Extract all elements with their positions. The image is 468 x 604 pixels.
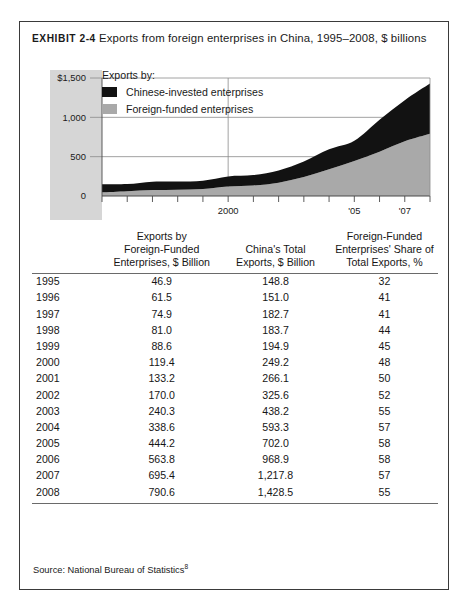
column-header-share-line3: Total Exports, %: [331, 256, 438, 269]
svg-text:$1,500: $1,500: [57, 72, 86, 83]
cell-ffe-exports: 338.6: [103, 419, 220, 435]
cell-ffe-share: 32: [331, 273, 438, 290]
legend-label-chinese-invested: Chinese-invested enterprises: [126, 86, 263, 98]
legend-item-chinese-invested: Chinese-invested enterprises: [102, 84, 342, 100]
cell-ffe-exports: 88.6: [103, 338, 220, 354]
cell-ffe-exports: 790.6: [103, 484, 220, 500]
cell-year: 2001: [32, 371, 103, 387]
cell-year: 1999: [32, 338, 103, 354]
svg-text:1,000: 1,000: [63, 112, 86, 123]
table-row: 199661.5151.041: [32, 290, 438, 306]
column-header-ffe-line2: Foreign-Funded: [103, 243, 220, 256]
cell-china-total: 968.9: [220, 452, 331, 468]
cell-china-total: 593.3: [220, 419, 331, 435]
table-bottom-divider: [32, 503, 438, 504]
column-header-ffe-line1: Exports by: [103, 230, 220, 243]
table-row: 2003240.3438.255: [32, 403, 438, 419]
cell-year: 1997: [32, 306, 103, 322]
cell-year: 2003: [32, 403, 103, 419]
cell-ffe-share: 50: [331, 371, 438, 387]
legend-title: Exports by:: [102, 69, 342, 81]
table-row: 2000119.4249.248: [32, 355, 438, 371]
cell-china-total: 438.2: [220, 403, 331, 419]
cell-china-total: 151.0: [220, 290, 331, 306]
cell-china-total: 325.6: [220, 387, 331, 403]
exhibit-data-table: Exports by Foreign-Funded Enterprises, $…: [32, 230, 438, 500]
cell-year: 2000: [32, 355, 103, 371]
legend-label-foreign-funded: Foreign-funded enterprises: [126, 103, 253, 115]
cell-year: 2007: [32, 468, 103, 484]
exhibit-container: EXHIBIT 2-4 Exports from foreign enterpr…: [19, 21, 449, 590]
cell-year: 2006: [32, 452, 103, 468]
cell-ffe-exports: 240.3: [103, 403, 220, 419]
cell-ffe-share: 55: [331, 484, 438, 500]
cell-ffe-share: 57: [331, 419, 438, 435]
exhibit-number-label: EXHIBIT 2-4: [32, 33, 96, 44]
table-row: 199774.9182.741: [32, 306, 438, 322]
table-row: 2007695.41,217.857: [32, 468, 438, 484]
cell-china-total: 148.8: [220, 273, 331, 290]
cell-ffe-exports: 119.4: [103, 355, 220, 371]
cell-ffe-share: 44: [331, 322, 438, 338]
cell-ffe-exports: 81.0: [103, 322, 220, 338]
svg-text:500: 500: [70, 151, 86, 162]
cell-ffe-share: 41: [331, 290, 438, 306]
cell-china-total: 266.1: [220, 371, 331, 387]
cell-china-total: 702.0: [220, 435, 331, 451]
cell-ffe-share: 58: [331, 435, 438, 451]
svg-text:'07: '07: [399, 205, 411, 216]
cell-ffe-share: 57: [331, 468, 438, 484]
source-note: Source: National Bureau of Statistics8: [33, 563, 188, 575]
cell-year: 2002: [32, 387, 103, 403]
table-row: 2001133.2266.150: [32, 371, 438, 387]
legend-swatch-black: [102, 87, 117, 97]
cell-year: 2008: [32, 484, 103, 500]
cell-ffe-exports: 46.9: [103, 273, 220, 290]
table-body: 199546.9148.832199661.5151.041199774.918…: [32, 273, 438, 500]
cell-china-total: 194.9: [220, 338, 331, 354]
cell-china-total: 249.2: [220, 355, 331, 371]
cell-year: 1996: [32, 290, 103, 306]
y-axis-label-band: [50, 70, 102, 220]
column-header-ffe-exports: Exports by Foreign-Funded Enterprises, $…: [103, 230, 220, 273]
cell-china-total: 182.7: [220, 306, 331, 322]
cell-ffe-share: 48: [331, 355, 438, 371]
table-row: 199881.0183.744: [32, 322, 438, 338]
cell-ffe-exports: 170.0: [103, 387, 220, 403]
chart-x-tick-labels: 2000'05'07: [218, 205, 411, 216]
column-header-total-line3: Exports, $ Billion: [220, 256, 331, 269]
exhibit-title-text: Exports from foreign enterprises in Chin…: [99, 32, 426, 44]
table-row: 2002170.0325.652: [32, 387, 438, 403]
column-header-china-total: China's Total Exports, $ Billion: [220, 230, 331, 273]
chart-x-ticks: [102, 196, 430, 202]
legend-item-foreign-funded: Foreign-funded enterprises: [102, 101, 342, 117]
cell-year: 1998: [32, 322, 103, 338]
cell-year: 2005: [32, 435, 103, 451]
table-header-row: Exports by Foreign-Funded Enterprises, $…: [32, 230, 438, 273]
source-text: Source: National Bureau of Statistics: [33, 565, 184, 575]
exhibit-title: EXHIBIT 2-4 Exports from foreign enterpr…: [32, 30, 440, 47]
cell-ffe-share: 58: [331, 452, 438, 468]
table-head: Exports by Foreign-Funded Enterprises, $…: [32, 230, 438, 273]
column-header-year: [32, 230, 103, 273]
cell-ffe-exports: 444.2: [103, 435, 220, 451]
cell-china-total: 1,217.8: [220, 468, 331, 484]
column-header-ffe-share: Foreign-Funded Enterprises' Share of Tot…: [331, 230, 438, 273]
table-row: 2008790.61,428.555: [32, 484, 438, 500]
cell-china-total: 183.7: [220, 322, 331, 338]
cell-ffe-share: 55: [331, 403, 438, 419]
cell-china-total: 1,428.5: [220, 484, 331, 500]
cell-ffe-exports: 74.9: [103, 306, 220, 322]
table-row: 2005444.2702.058: [32, 435, 438, 451]
column-header-share-line1: Foreign-Funded: [331, 230, 438, 243]
cell-year: 1995: [32, 273, 103, 290]
table-row: 199988.6194.945: [32, 338, 438, 354]
source-footnote-marker: 8: [184, 563, 188, 570]
cell-ffe-share: 45: [331, 338, 438, 354]
svg-text:0: 0: [81, 190, 86, 201]
table-row: 2006563.8968.958: [32, 452, 438, 468]
cell-ffe-exports: 61.5: [103, 290, 220, 306]
column-header-total-line2: China's Total: [220, 243, 331, 256]
legend-swatch-gray: [102, 104, 117, 114]
svg-text:'05: '05: [348, 205, 360, 216]
